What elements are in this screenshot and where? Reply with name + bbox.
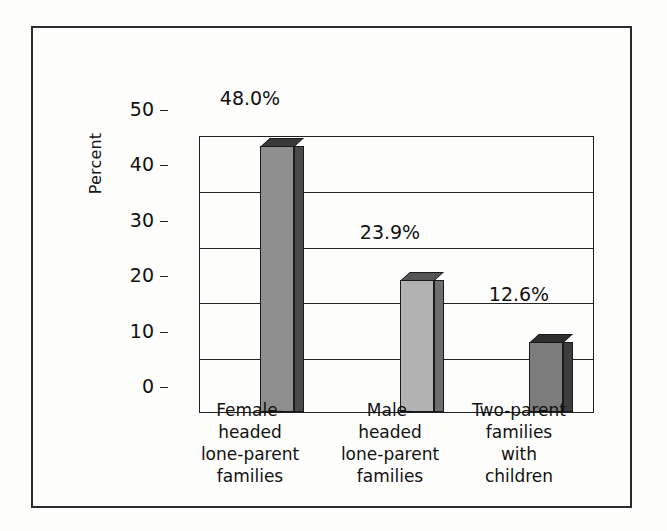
gridline — [200, 248, 593, 249]
bar-value-label: 12.6% — [471, 285, 567, 304]
y-tick-mark — [160, 110, 168, 111]
category-label-line: lone-parent — [175, 443, 325, 465]
category-label-line: families — [315, 465, 465, 487]
y-tick-mark — [160, 221, 168, 222]
bar-front-face — [400, 280, 434, 412]
y-tick-mark — [160, 332, 168, 333]
category-label-line: Male- — [315, 399, 465, 421]
bar-value-label: 48.0% — [202, 89, 298, 108]
category-label-line: lone-parent — [315, 443, 465, 465]
category-label-line: Two-parent — [444, 399, 594, 421]
bar-side-face — [434, 280, 444, 412]
y-tick-label: 30 — [102, 211, 154, 230]
category-label-line: headed — [175, 421, 325, 443]
y-tick-mark — [160, 276, 168, 277]
plot-area — [199, 136, 594, 413]
bar — [400, 280, 434, 412]
x-axis-category-label: Female-headedlone-parentfamilies — [175, 399, 325, 487]
y-tick-mark — [160, 165, 168, 166]
y-tick-label: 0 — [102, 377, 154, 396]
category-label-line: families — [175, 465, 325, 487]
category-label-line: children — [444, 465, 594, 487]
y-tick-label: 20 — [102, 266, 154, 285]
bar — [260, 146, 294, 412]
category-label-line: families — [444, 421, 594, 443]
category-label-line: with — [444, 443, 594, 465]
y-tick-label: 10 — [102, 322, 154, 341]
y-tick-mark — [160, 387, 168, 388]
y-tick-label: 40 — [102, 155, 154, 174]
figure-page: Percent 01020304050 48.0%23.9%12.6% Fema… — [0, 0, 667, 531]
figure-border: Percent 01020304050 48.0%23.9%12.6% Fema… — [31, 26, 632, 508]
x-axis-category-label: Two-parentfamilieswithchildren — [444, 399, 594, 487]
category-label-line: Female- — [175, 399, 325, 421]
y-tick-label: 50 — [102, 100, 154, 119]
bar-front-face — [260, 146, 294, 412]
bar-side-face — [294, 146, 304, 412]
gridline — [200, 192, 593, 193]
category-label-line: headed — [315, 421, 465, 443]
x-axis-category-label: Male-headedlone-parentfamilies — [315, 399, 465, 487]
bar-value-label: 23.9% — [342, 223, 438, 242]
